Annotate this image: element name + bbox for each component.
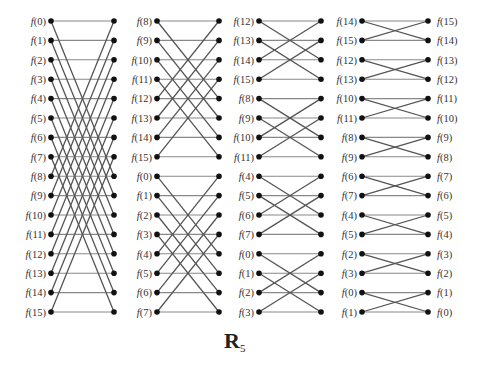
output-label: f(15) xyxy=(437,16,458,28)
node-label: f(9) xyxy=(239,113,255,125)
output-label: f(7) xyxy=(437,171,453,183)
input-node xyxy=(256,96,262,102)
stage-3: f(12)f(13)f(14)f(15)f(8)f(9)f(10)f(11)f(… xyxy=(234,16,324,319)
node-label: f(10) xyxy=(26,210,47,222)
output-node xyxy=(318,232,324,238)
input-node xyxy=(154,290,160,296)
output-node xyxy=(216,309,222,315)
output-node xyxy=(425,38,431,44)
node-label: f(1) xyxy=(239,268,255,280)
input-node xyxy=(48,115,54,121)
input-node xyxy=(359,57,365,63)
input-node xyxy=(154,135,160,141)
output-node xyxy=(216,290,222,296)
output-node xyxy=(318,135,324,141)
node-label: f(7) xyxy=(137,307,153,319)
output-label: f(3) xyxy=(437,249,453,261)
output-label: f(11) xyxy=(437,93,458,105)
input-node xyxy=(359,309,365,315)
input-node xyxy=(48,251,54,257)
output-node xyxy=(216,96,222,102)
node-label: f(14) xyxy=(234,55,255,67)
input-node xyxy=(256,212,262,218)
output-node xyxy=(111,270,117,276)
stage-4: f(14)f(15)f(15)f(14)f(12)f(13)f(13)f(12)… xyxy=(337,16,458,319)
node-label: f(1) xyxy=(31,35,47,47)
output-node xyxy=(318,18,324,24)
output-node xyxy=(318,57,324,63)
node-label: f(2) xyxy=(31,55,47,67)
input-node xyxy=(256,18,262,24)
input-node xyxy=(256,173,262,179)
output-node xyxy=(318,309,324,315)
output-node xyxy=(216,57,222,63)
node-label: f(10) xyxy=(337,93,358,105)
input-node xyxy=(48,135,54,141)
input-node xyxy=(359,135,365,141)
node-label: f(8) xyxy=(31,171,47,183)
output-node xyxy=(216,18,222,24)
input-node xyxy=(256,309,262,315)
output-node xyxy=(216,154,222,160)
node-label: f(9) xyxy=(342,152,358,164)
output-node xyxy=(111,38,117,44)
node-label: f(15) xyxy=(132,152,153,164)
input-node xyxy=(48,270,54,276)
node-label: f(4) xyxy=(137,249,153,261)
figure-caption: R5 xyxy=(224,328,245,354)
input-node xyxy=(256,154,262,160)
caption-main: R xyxy=(224,328,240,353)
output-node xyxy=(425,251,431,257)
input-node xyxy=(48,38,54,44)
stage-1: f(0)f(1)f(2)f(3)f(4)f(5)f(6)f(7)f(8)f(9)… xyxy=(26,16,117,319)
node-label: f(5) xyxy=(239,190,255,202)
node-label: f(11) xyxy=(26,229,47,241)
node-label: f(11) xyxy=(234,152,255,164)
node-label: f(7) xyxy=(342,190,358,202)
input-node xyxy=(256,251,262,257)
input-node xyxy=(48,154,54,160)
output-node xyxy=(318,38,324,44)
input-node xyxy=(154,212,160,218)
input-node xyxy=(48,18,54,24)
node-label: f(12) xyxy=(337,55,358,67)
output-node xyxy=(111,135,117,141)
butterfly-network-diagram: f(0)f(1)f(2)f(3)f(4)f(5)f(6)f(7)f(8)f(9)… xyxy=(0,0,478,368)
output-node xyxy=(216,76,222,82)
output-node xyxy=(216,115,222,121)
output-node xyxy=(111,173,117,179)
output-node xyxy=(216,135,222,141)
input-node xyxy=(154,57,160,63)
output-node xyxy=(318,115,324,121)
node-label: f(1) xyxy=(342,307,358,319)
input-node xyxy=(359,232,365,238)
output-node xyxy=(318,212,324,218)
node-label: f(14) xyxy=(132,132,153,144)
node-label: f(9) xyxy=(137,35,153,47)
input-node xyxy=(154,232,160,238)
node-label: f(0) xyxy=(31,16,47,28)
caption-subscript: 5 xyxy=(240,342,246,354)
node-label: f(8) xyxy=(137,16,153,28)
input-node xyxy=(359,115,365,121)
node-label: f(4) xyxy=(342,210,358,222)
output-node xyxy=(111,96,117,102)
input-node xyxy=(154,309,160,315)
output-label: f(2) xyxy=(437,268,453,280)
node-label: f(5) xyxy=(31,113,47,125)
output-node xyxy=(111,290,117,296)
stage-2: f(8)f(9)f(10)f(11)f(12)f(13)f(14)f(15)f(… xyxy=(132,16,222,319)
input-node xyxy=(359,251,365,257)
input-node xyxy=(256,135,262,141)
input-node xyxy=(154,38,160,44)
node-label: f(14) xyxy=(26,287,47,299)
input-node xyxy=(48,232,54,238)
node-label: f(15) xyxy=(234,74,255,86)
input-node xyxy=(256,115,262,121)
output-node xyxy=(425,76,431,82)
output-node xyxy=(425,154,431,160)
node-label: f(10) xyxy=(132,55,153,67)
node-label: f(0) xyxy=(342,287,358,299)
node-label: f(11) xyxy=(337,113,358,125)
output-node xyxy=(216,270,222,276)
